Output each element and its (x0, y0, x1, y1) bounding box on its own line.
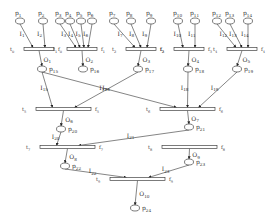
input-arc-label: I5 (76, 30, 81, 39)
transition-right-label: f0 (58, 46, 62, 54)
place-node (16, 18, 25, 24)
place-p5: p5 (76, 9, 86, 24)
place-node (185, 124, 194, 130)
output-arc (65, 149, 68, 164)
input-arc-label: I15 (40, 84, 48, 93)
place-node (77, 18, 86, 24)
place-node (233, 66, 242, 72)
transition-left-label: t1 (53, 46, 57, 54)
transition-left-label: t2 (112, 46, 116, 54)
place-label: p5 (76, 9, 83, 18)
output-arc (82, 51, 83, 67)
place-p14: p14 (243, 9, 253, 24)
input-arc (43, 24, 45, 48)
place-p23: p23 (185, 158, 206, 167)
transition-left-label: t4 (213, 46, 218, 54)
output-arc (189, 149, 190, 160)
transition-left-label: t3 (160, 46, 164, 54)
transition-right-label: f9 (169, 176, 173, 184)
transition-t6: t6f6 (146, 106, 223, 114)
place-label: p19 (244, 65, 254, 74)
input-arc-label: I23 (162, 165, 170, 174)
input-arc-label: I8 (129, 30, 134, 39)
transition-right-label: f1 (101, 46, 105, 54)
place-p19: p19 (233, 65, 254, 74)
place-node (213, 18, 222, 24)
transition-bar (40, 146, 95, 149)
transition-t3: t3f3 (160, 46, 212, 54)
transition-right-label: f3 (208, 46, 212, 54)
input-arc-label: I13 (229, 30, 237, 39)
place-p13: p13 (225, 9, 235, 24)
transition-right-label: f8 (221, 144, 225, 152)
transition-bar (227, 48, 257, 51)
place-node (184, 66, 193, 72)
output-arc-label: O3 (143, 56, 151, 65)
input-arc (147, 24, 151, 48)
transition-left-label: t8 (148, 144, 152, 152)
transition-left-label: t5 (22, 106, 26, 114)
output-arc (135, 181, 138, 206)
transition-right-label: f6 (219, 106, 223, 114)
place-label: p10 (173, 9, 183, 18)
place-p3: p3 (55, 9, 65, 24)
output-arc-label: O7 (191, 115, 199, 124)
transition-bar (24, 48, 54, 51)
place-p24: p24 (131, 204, 152, 213)
place-p18: p18 (184, 65, 205, 74)
place-p8: p8 (126, 9, 136, 24)
place-p1: p1 (15, 9, 25, 24)
output-arc-label: O1 (44, 56, 52, 65)
input-arc-label: I2 (37, 30, 42, 39)
transition-t5: t5f5 (22, 106, 99, 114)
place-label: p13 (225, 9, 235, 18)
transition-t4: t4f4 (213, 46, 266, 54)
input-arc-label: I12 (220, 30, 228, 39)
place-node (56, 18, 65, 24)
place-label: p18 (195, 65, 205, 74)
transition-left-label: t0 (10, 46, 14, 54)
place-node (244, 18, 253, 24)
petri-net-diagram: I1I2I3I4I5I6I7I8I9I10I11I12I13I14I15I16I… (0, 0, 267, 213)
place-label: p6 (87, 9, 94, 18)
output-arc (188, 111, 190, 125)
output-arc (237, 51, 242, 67)
output-arc-label: O2 (86, 56, 94, 65)
place-node (127, 18, 136, 24)
place-p20: p20 (57, 125, 78, 134)
place-node (38, 66, 47, 72)
place-node (134, 66, 143, 72)
place-label: p22 (72, 162, 82, 171)
output-arc-label: O6 (65, 116, 73, 125)
transition-t9: t9f9 (96, 176, 173, 184)
input-arc-label: I3 (61, 30, 66, 39)
output-arc-label: O8 (69, 153, 77, 162)
transition-left-label: t7 (26, 144, 30, 152)
place-p12: p12 (212, 9, 222, 24)
input-arc-label: I10 (174, 30, 182, 39)
transition-t2: t2f2 (112, 46, 164, 54)
place-label: p3 (55, 9, 62, 18)
place-p10: p10 (173, 9, 183, 24)
place-node (131, 205, 140, 211)
place-p15: p15 (38, 65, 59, 74)
place-node (185, 159, 194, 165)
place-p4: p4 (65, 9, 75, 24)
place-label: p2 (38, 9, 45, 18)
place-label: p1 (15, 9, 22, 18)
place-p7: p7 (109, 9, 119, 24)
output-arc (188, 51, 189, 67)
place-node (191, 18, 200, 24)
place-label: p9 (146, 9, 153, 18)
place-node (226, 18, 235, 24)
place-label: p4 (65, 9, 72, 18)
place-label: p7 (109, 9, 116, 18)
input-arc (88, 24, 92, 48)
input-arc-label: I22 (89, 167, 97, 176)
transition-t7: t7f7 (26, 144, 103, 152)
output-arc-label: O5 (243, 56, 251, 65)
place-node (39, 18, 48, 24)
place-label: p14 (243, 9, 253, 18)
transition-t8: t8f8 (148, 144, 225, 152)
place-node (110, 18, 119, 24)
